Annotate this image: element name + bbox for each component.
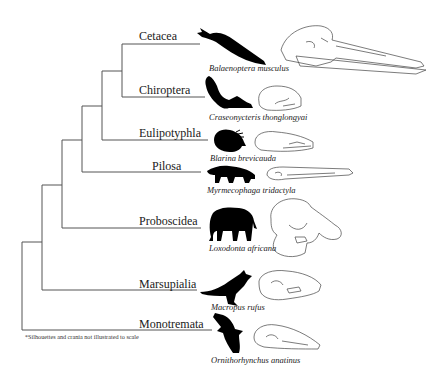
species-label-ornithorhynchus-anatinus: Ornithorhynchus anatinus [211,356,300,365]
clade-label-pilosa: Pilosa [152,160,181,172]
shrew-silhouette-icon [212,128,246,154]
blue-whale-silhouette-icon [196,28,266,68]
clade-label-marsupialia: Marsupialia [139,278,196,290]
clade-label-chiroptera: Chiroptera [139,84,190,96]
elephant-cranium-drawing [265,197,345,261]
bat-cranium-drawing [255,84,305,112]
platypus-cranium-drawing [252,323,322,351]
clade-label-cetacea: Cetacea [139,30,177,42]
elephant-silhouette-icon [207,207,257,243]
platypus-silhouette-icon [213,313,247,353]
kangaroo-cranium-drawing [257,269,323,303]
clade-label-proboscidea: Proboscidea [139,215,198,227]
kangaroo-silhouette-icon [200,270,252,306]
clade-label-eulipotyphla: Eulipotyphla [139,127,201,139]
clade-label-monotremata: Monotremata [139,318,204,330]
species-label-balaenoptera-musculus: Balaenoptera musculus [209,64,289,73]
anteater-cranium-drawing [265,165,353,183]
shrew-cranium-drawing [253,130,315,154]
blue-whale-cranium-drawing [276,22,426,77]
species-label-macropus-rufus: Macropus rufus [211,303,265,312]
bat-silhouette-icon [203,76,253,110]
species-label-loxodonta-africana: Loxodonta africana [209,244,276,253]
species-label-blarina-brevicauda: Blarina brevicauda [210,154,276,163]
anteater-silhouette-icon [207,163,257,185]
species-label-craseonycteris-thonglongyai: Craseonycteris thonglongyai [209,113,307,122]
scale-footnote: *Silhouettes and crania not illustrated … [25,333,139,340]
species-label-myrmecophaga-tridactyla: Myrmecophaga tridactyla [207,186,296,195]
